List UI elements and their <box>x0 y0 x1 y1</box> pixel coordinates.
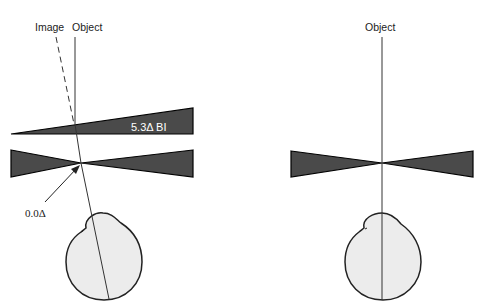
bowtie-prism-right-half <box>81 150 193 177</box>
right-panel <box>291 37 473 300</box>
pointer-arrow-shaft <box>45 168 77 202</box>
image-ray-dashed <box>56 37 74 124</box>
object-label-left: Object <box>72 22 102 33</box>
bowtie-prism-left-half <box>11 150 81 177</box>
image-label: Image <box>35 22 64 33</box>
resultant-prism-label: 0.0Δ <box>25 208 46 219</box>
prism-diagram <box>0 0 488 307</box>
object-label-right: Object <box>365 22 395 33</box>
left-panel <box>11 37 193 300</box>
eye-outline <box>345 213 421 300</box>
prism-power-label: 5.3Δ BI <box>131 122 166 133</box>
bowtie-prism-right-half <box>382 151 473 177</box>
bowtie-prism-left-half <box>291 151 382 177</box>
eye-outline <box>66 213 142 300</box>
